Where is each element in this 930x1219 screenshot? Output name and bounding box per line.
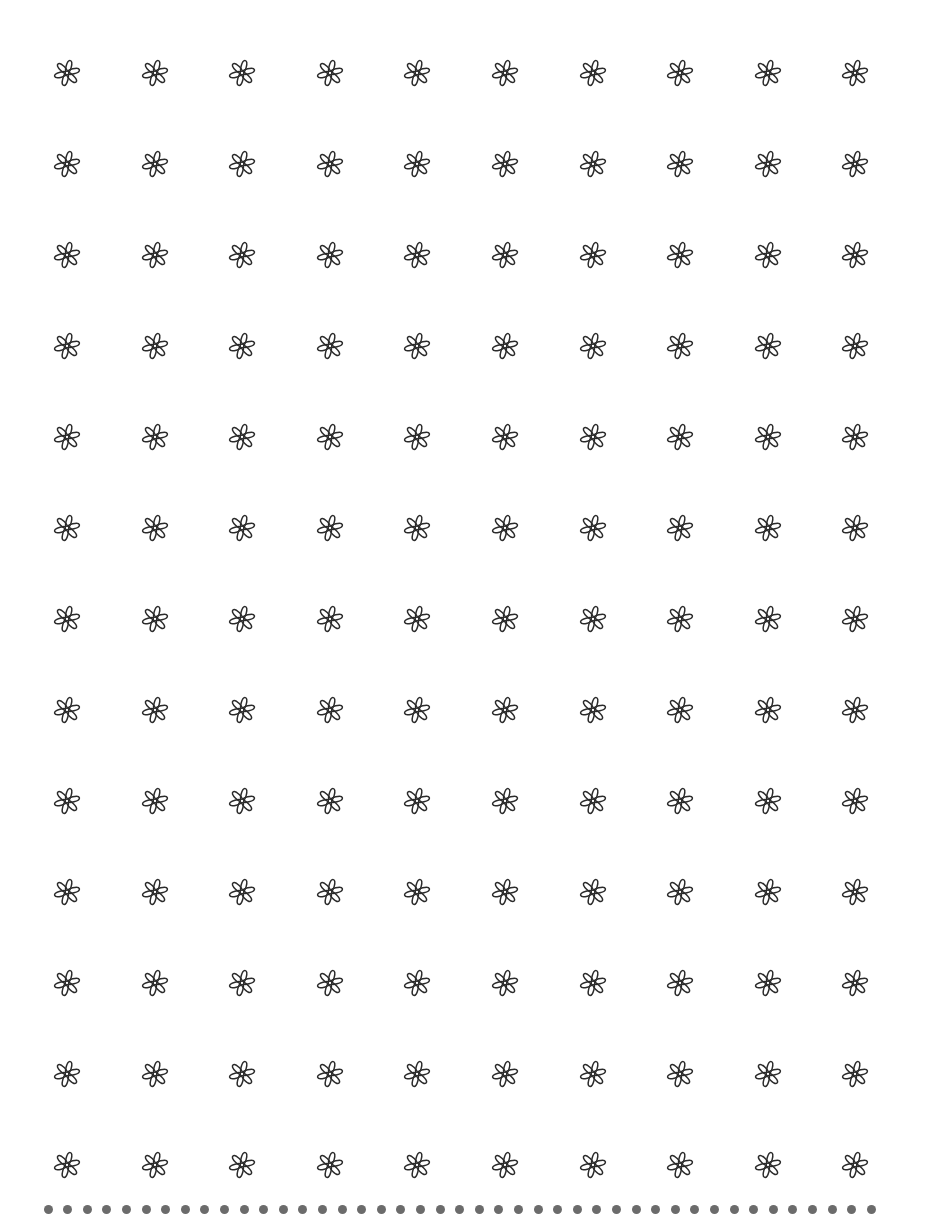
border-dot (436, 1205, 445, 1214)
border-dot (298, 1205, 307, 1214)
border-dot (534, 1205, 543, 1214)
border-dot (357, 1205, 366, 1214)
border-dot (377, 1205, 386, 1214)
border-dot (83, 1205, 92, 1214)
border-dot (730, 1205, 739, 1214)
border-dot (514, 1205, 523, 1214)
border-dot (200, 1205, 209, 1214)
border-dot (161, 1205, 170, 1214)
dotted-border-line (0, 0, 930, 1219)
border-dot (318, 1205, 327, 1214)
border-dot (44, 1205, 53, 1214)
border-dot (612, 1205, 621, 1214)
border-dot (671, 1205, 680, 1214)
border-dot (142, 1205, 151, 1214)
border-dot (651, 1205, 660, 1214)
border-dot (494, 1205, 503, 1214)
border-dot (102, 1205, 111, 1214)
border-dot (240, 1205, 249, 1214)
border-dot (690, 1205, 699, 1214)
border-dot (279, 1205, 288, 1214)
border-dot (259, 1205, 268, 1214)
border-dot (122, 1205, 131, 1214)
border-dot (867, 1205, 876, 1214)
border-dot (828, 1205, 837, 1214)
border-dot (749, 1205, 758, 1214)
border-dot (220, 1205, 229, 1214)
border-dot (475, 1205, 484, 1214)
border-dot (338, 1205, 347, 1214)
border-dot (181, 1205, 190, 1214)
border-dot (592, 1205, 601, 1214)
border-dot (808, 1205, 817, 1214)
border-dot (416, 1205, 425, 1214)
border-dot (573, 1205, 582, 1214)
border-dot (553, 1205, 562, 1214)
border-dot (769, 1205, 778, 1214)
border-dot (396, 1205, 405, 1214)
border-dot (847, 1205, 856, 1214)
border-dot (455, 1205, 464, 1214)
border-dot (788, 1205, 797, 1214)
border-dot (63, 1205, 72, 1214)
border-dot (710, 1205, 719, 1214)
border-dot (632, 1205, 641, 1214)
